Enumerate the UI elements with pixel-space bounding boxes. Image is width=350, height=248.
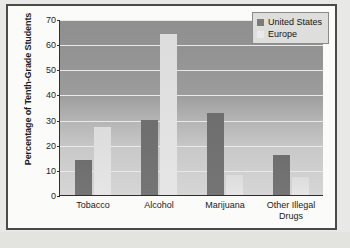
y-axis-label: Percentage of Tenth-Grade Students (23, 9, 33, 169)
legend-label-united-states: United States (268, 17, 322, 27)
y-axis-tick-label: 40 (46, 90, 56, 100)
bar-group: Marijuana (192, 20, 258, 195)
bar-chart: Percentage of Tenth-Grade Students 01020… (8, 6, 335, 228)
y-axis-tick-label: 50 (46, 65, 56, 75)
bar (75, 160, 93, 195)
legend-label-europe: Europe (268, 29, 297, 39)
bar (94, 127, 112, 195)
x-axis-tick-label: Other IllegalDrugs (258, 200, 324, 222)
bar (273, 155, 291, 195)
x-axis-tick-label: Marijuana (192, 200, 258, 211)
x-axis-tick-label: Tobacco (60, 200, 126, 211)
legend-item-europe: Europe (257, 28, 322, 40)
bar-group: Other IllegalDrugs (258, 20, 324, 195)
screenshot-root: Percentage of Tenth-Grade Students 01020… (0, 0, 350, 248)
legend-swatch-icon-united-states (257, 19, 264, 26)
legend-item-united-states: United States (257, 16, 322, 28)
x-axis-tick-label: Alcohol (126, 200, 192, 211)
y-axis-tick-label: 20 (46, 141, 56, 151)
bar-group: Tobacco (60, 20, 126, 195)
y-axis-tick-label: 70 (46, 15, 56, 25)
y-axis-tick-label: 60 (46, 40, 56, 50)
bar-group: Alcohol (126, 20, 192, 195)
y-axis-tick-label: 30 (46, 116, 56, 126)
chart-card: Percentage of Tenth-Grade Students 01020… (6, 4, 337, 230)
bar (226, 175, 244, 195)
y-axis-tick-label: 0 (51, 191, 56, 201)
bar (160, 34, 178, 195)
bar (292, 177, 310, 195)
bar (207, 113, 225, 195)
chart-legend: United States Europe (252, 12, 329, 44)
y-axis-tick-label: 10 (46, 166, 56, 176)
y-axis-tick-mark (57, 196, 60, 197)
bar (141, 120, 159, 195)
page-background-texture (0, 232, 350, 248)
legend-swatch-icon-europe (257, 31, 264, 38)
plot-area: 010203040506070TobaccoAlcoholMarijuanaOt… (59, 20, 323, 196)
